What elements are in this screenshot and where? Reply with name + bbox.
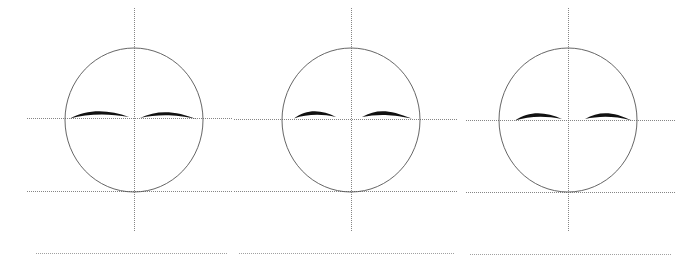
- facial-proportion-diagram: [0, 0, 699, 269]
- head-study-2-brow-left: [294, 111, 336, 118]
- diagram-canvas: [0, 0, 699, 269]
- head-study-1-brow-left: [70, 111, 129, 118]
- head-study-3-brow-left: [515, 113, 562, 120]
- head-study-1: [27, 8, 232, 253]
- head-study-2: [234, 8, 458, 253]
- head-study-2-brow-right: [362, 111, 412, 118]
- head-study-3-brow-right: [585, 113, 632, 120]
- head-study-3: [466, 8, 676, 254]
